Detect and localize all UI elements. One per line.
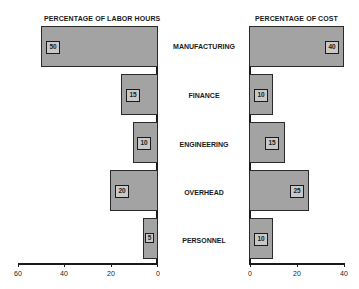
value-label: 50 — [46, 41, 60, 54]
left-tick — [111, 263, 112, 267]
right-tick-label: 20 — [287, 270, 307, 277]
left-tick — [64, 263, 65, 267]
category-label-engineering: ENGINEERING — [154, 141, 254, 148]
category-label-finance: FINANCE — [154, 92, 254, 99]
left-chart-title: PERCENTAGE OF LABOR HOURS — [44, 15, 160, 22]
value-label: 10 — [254, 233, 268, 246]
value-label: 15 — [126, 89, 140, 102]
right-bar-finance: 10 — [249, 74, 273, 115]
right-tick — [250, 263, 251, 267]
right-tick — [344, 263, 345, 267]
value-label: 10 — [254, 89, 268, 102]
right-chart-title: PERCENTAGE OF COST — [255, 15, 338, 22]
left-tick-label: 40 — [54, 270, 74, 277]
left-bar-manufacturing: 50 — [41, 26, 158, 67]
category-label-overhead: OVERHEAD — [154, 189, 254, 196]
left-tick — [157, 263, 158, 267]
right-bar-personnel: 10 — [249, 218, 273, 259]
right-tick — [297, 263, 298, 267]
right-bar-overhead: 25 — [249, 170, 309, 211]
right-tick-label: 0 — [240, 270, 260, 277]
right-bar-engineering: 15 — [249, 122, 285, 163]
left-tick-label: 60 — [8, 270, 28, 277]
left-tick — [18, 263, 19, 267]
value-label: 15 — [265, 137, 279, 150]
value-label: 5 — [145, 233, 154, 243]
right-bar-manufacturing: 40 — [249, 26, 344, 67]
value-label: 10 — [137, 137, 151, 150]
left-tick-label: 20 — [101, 270, 121, 277]
value-label: 20 — [115, 185, 129, 198]
right-tick-label: 40 — [334, 270, 354, 277]
left-tick-label: 0 — [148, 270, 168, 277]
category-label-manufacturing: MANUFACTURING — [154, 43, 254, 50]
value-label: 25 — [290, 185, 304, 198]
value-label: 40 — [325, 41, 339, 54]
category-label-personnel: PERSONNEL — [154, 237, 254, 244]
left-x-axis — [18, 263, 158, 265]
left-bar-finance: 15 — [121, 74, 158, 115]
left-bar-overhead: 20 — [110, 170, 158, 211]
